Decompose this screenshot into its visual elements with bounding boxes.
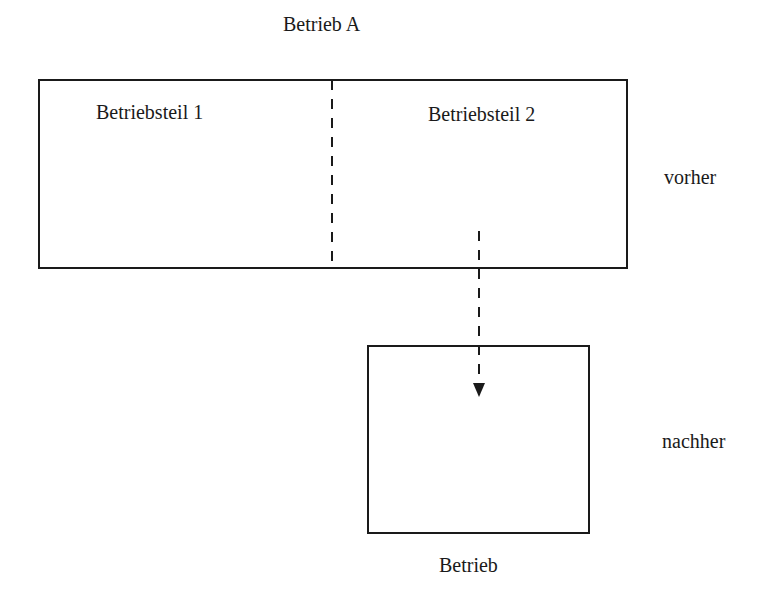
transfer-arrow-icon	[473, 231, 485, 397]
diagram-lines	[0, 0, 778, 599]
